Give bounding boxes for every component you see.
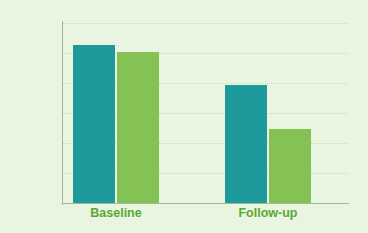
category-label-baseline: Baseline <box>56 206 176 220</box>
plot-area <box>63 23 348 203</box>
bar-baseline-series-1 <box>73 45 115 203</box>
bar-chart: 051015202530 BaselineFollow-up <box>0 0 368 233</box>
x-axis-line <box>62 203 349 204</box>
category-label-follow-up: Follow-up <box>208 206 328 220</box>
bar-baseline-series-2 <box>117 52 159 203</box>
bar-follow-up-series-1 <box>225 85 267 203</box>
gridline <box>63 23 348 24</box>
bar-follow-up-series-2 <box>269 129 311 203</box>
